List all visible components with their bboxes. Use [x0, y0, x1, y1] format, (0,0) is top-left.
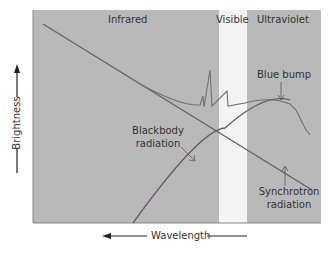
- blue-bump-label: Blue bump: [257, 69, 311, 81]
- visible-label: Visible: [216, 14, 249, 26]
- blackbody-label-1: Blackbody: [128, 125, 188, 137]
- y-axis-label: Brightness: [11, 93, 23, 153]
- infrared-label: Infrared: [108, 14, 147, 26]
- synchrotron-label-2: radiation: [254, 199, 324, 211]
- x-arrow-icon: [102, 233, 111, 239]
- ultraviolet-label: Ultraviolet: [257, 14, 309, 26]
- blackbody-label-2: radiation: [128, 138, 188, 150]
- y-arrow-icon: [14, 64, 20, 73]
- visible-band: [219, 10, 247, 223]
- synchrotron-label-1: Synchrotron: [254, 186, 324, 198]
- x-axis-label: Wavelength: [151, 230, 210, 242]
